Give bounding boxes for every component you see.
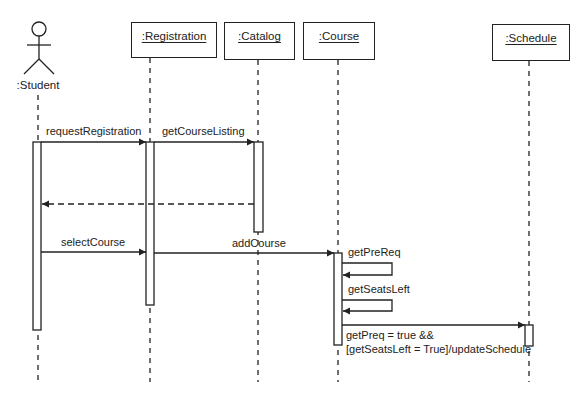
student-actor-icon xyxy=(24,22,54,74)
schedule-object-label: :Schedule xyxy=(493,32,569,44)
schedule-object-box: :Schedule xyxy=(492,24,570,61)
message-get-prereq-label: getPreReq xyxy=(348,245,401,259)
message-request-registration-label: requestRegistration xyxy=(46,124,141,138)
student-actor-label: :Student xyxy=(8,79,68,91)
message-get-seats-left-label: getSeatsLeft xyxy=(348,282,410,296)
catalog-activation xyxy=(254,142,263,232)
catalog-object-box: :Catalog xyxy=(224,22,295,60)
course-activation xyxy=(334,253,342,345)
sequence-diagram: :Registration :Catalog :Course :Schedule… xyxy=(0,0,587,399)
registration-object-label: :Registration xyxy=(132,30,216,42)
message-get-seats-left-self-arrow xyxy=(342,300,392,311)
message-add-course-label: addCourse xyxy=(232,236,286,250)
message-select-course-label: selectCourse xyxy=(61,235,125,249)
registration-activation xyxy=(146,142,154,305)
message-get-prereq-self-arrow xyxy=(342,263,392,275)
course-object-label: :Course xyxy=(304,30,374,42)
catalog-object-label: :Catalog xyxy=(225,30,294,42)
message-get-course-listing-label: getCourseListing xyxy=(162,124,245,138)
course-object-box: :Course xyxy=(303,22,375,60)
student-activation xyxy=(33,142,41,330)
message-update-schedule-label-line1: getPreq = true && xyxy=(346,328,434,342)
registration-object-box: :Registration xyxy=(131,22,217,58)
message-update-schedule-label-line2: [getSeatsLeft = True]/updateSchedule xyxy=(346,342,531,356)
